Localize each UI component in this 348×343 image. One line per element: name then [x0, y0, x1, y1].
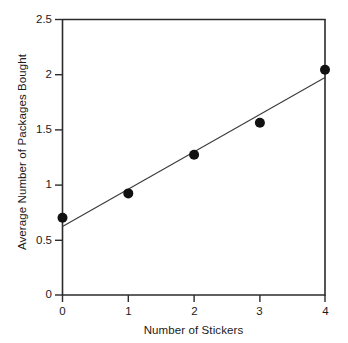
data-point: [255, 118, 265, 128]
data-point: [320, 65, 330, 75]
x-tick-label-2: 2: [178, 305, 211, 318]
x-tick-label-4: 4: [309, 305, 342, 318]
data-points: [58, 65, 331, 223]
data-point: [123, 188, 133, 198]
data-point: [58, 213, 68, 223]
data-point: [189, 150, 199, 160]
x-tick-label-3: 3: [243, 305, 276, 318]
plot-canvas: [0, 0, 348, 343]
x-axis-label: Number of Stickers: [62, 323, 325, 337]
y-axis-label: Average Number of Packages Bought: [14, 4, 30, 300]
x-tick-label-0: 0: [46, 305, 79, 318]
y-axis-ticks: [55, 20, 62, 296]
scatter-plot-figure: 2.5 2 1.5 1 0.5 0 0 1 2 3 4 Average Numb…: [0, 0, 348, 343]
x-tick-label-1: 1: [112, 305, 145, 318]
x-axis-ticks: [63, 295, 326, 302]
